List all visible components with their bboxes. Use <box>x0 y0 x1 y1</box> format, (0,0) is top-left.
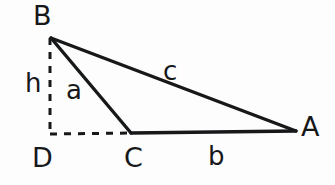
side-label-c: c <box>163 58 177 84</box>
side-label-h: h <box>25 70 41 96</box>
side-label-a: a <box>66 77 82 103</box>
side-label-b: b <box>208 143 225 169</box>
segment-b-line <box>131 131 296 133</box>
segment-dc-dashed-line <box>50 133 131 134</box>
vertex-label-a: A <box>301 113 319 140</box>
geometry-figure: B A D C h a c b <box>0 0 335 185</box>
vertex-label-c: C <box>124 144 143 171</box>
vertex-label-d: D <box>32 144 53 171</box>
vertex-label-b: B <box>33 2 52 29</box>
